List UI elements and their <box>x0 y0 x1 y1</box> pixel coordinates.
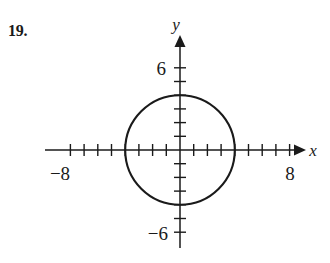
x-axis-label: x <box>308 141 317 160</box>
x-axis-arrowhead <box>294 145 306 156</box>
y-axis-max-tick-label: 6 <box>157 58 167 79</box>
y-axis-min-tick-label: −6 <box>148 223 168 244</box>
math-figure: 19. <box>0 0 330 263</box>
y-axis-arrowhead <box>175 35 186 47</box>
x-axis-max-tick-label: 8 <box>285 163 295 184</box>
x-axis-min-tick-label: −8 <box>50 163 70 184</box>
y-axis-label: y <box>170 15 180 34</box>
coordinate-plane-plot: y x −8 8 6 −6 <box>0 0 330 263</box>
